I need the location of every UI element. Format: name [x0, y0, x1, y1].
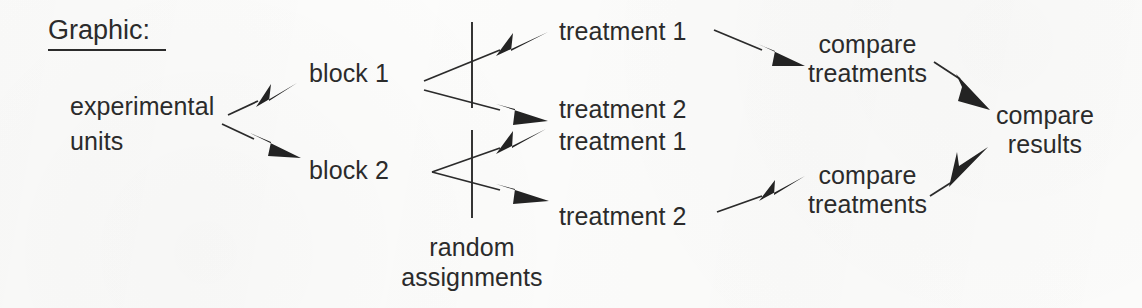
- arrow-block2-treatments-to-compare: [717, 176, 805, 212]
- arrow-block2-to-treatment1: [432, 129, 546, 172]
- arrow-units-to-block1: [228, 83, 297, 115]
- diagram-connectors: [0, 0, 1142, 308]
- diagram-canvas: Graphic: experimental units block 1 bloc…: [0, 0, 1142, 308]
- arrow-block1-to-treatment1: [424, 32, 548, 81]
- arrow-block1-to-treatment2: [424, 90, 548, 125]
- arrow-compare-bottom-to-results: [930, 147, 988, 196]
- arrow-compare-top-to-results: [934, 62, 990, 110]
- arrow-block1-treatments-to-compare: [714, 30, 805, 66]
- arrow-units-to-block2: [222, 124, 301, 158]
- arrow-block2-to-treatment2: [432, 172, 549, 204]
